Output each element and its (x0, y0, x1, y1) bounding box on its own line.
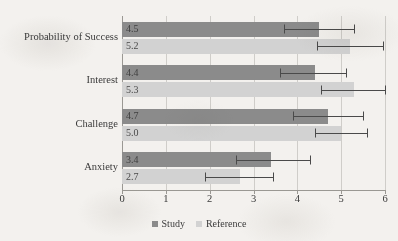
category-axis-labels: Probability of SuccessInterestChallengeA… (0, 0, 118, 241)
x-tick-label-6: 6 (382, 194, 387, 205)
category-label-interest: Interest (6, 75, 118, 86)
legend-swatch-icon (196, 221, 202, 227)
error-bar-cap-low (321, 85, 322, 94)
x-tick-label-4: 4 (295, 194, 300, 205)
legend-item-reference[interactable]: Reference (196, 219, 247, 229)
bar-group-row: 3.4 (122, 152, 385, 167)
bar-value-label: 5.2 (126, 41, 139, 51)
bar-group-row: 5.3 (122, 82, 385, 97)
bar-reference-interest: 5.3 (122, 82, 354, 97)
category-label-challenge: Challenge (6, 119, 118, 130)
error-bar-line (293, 116, 363, 117)
category-label-anxiety: Anxiety (6, 162, 118, 173)
error-bar-cap-high (383, 42, 384, 51)
error-bar-cap-low (205, 172, 206, 181)
error-bar-cap-high (367, 129, 368, 138)
bar-reference-probability-of-success: 5.2 (122, 39, 350, 54)
x-tick-label-0: 0 (119, 194, 124, 205)
chart-legend: StudyReference (0, 219, 398, 229)
error-bar-cap-low (236, 155, 237, 164)
legend-swatch-icon (152, 221, 158, 227)
x-tick-label-3: 3 (251, 194, 256, 205)
error-bar-line (284, 29, 354, 30)
plot-area: 4.55.24.45.34.75.03.42.7 (122, 16, 385, 190)
bar-value-label: 5.0 (126, 128, 139, 138)
bar-chart: Probability of SuccessInterestChallengeA… (0, 0, 398, 241)
bar-group-row: 5.0 (122, 126, 385, 141)
error-bar-cap-high (273, 172, 274, 181)
error-bar-cap-low (315, 129, 316, 138)
bar-group-row: 5.2 (122, 39, 385, 54)
error-bar-line (321, 90, 385, 91)
error-bar-cap-low (317, 42, 318, 51)
error-bar-cap-high (346, 68, 347, 77)
bar-value-label: 3.4 (126, 155, 139, 165)
bar-group-row: 4.4 (122, 65, 385, 80)
error-bar-line (317, 46, 383, 47)
error-bar-cap-high (310, 155, 311, 164)
bar-group-row: 2.7 (122, 169, 385, 184)
x-tick-label-2: 2 (207, 194, 212, 205)
error-bar-cap-high (354, 25, 355, 34)
error-bar-cap-low (280, 68, 281, 77)
legend-item-study[interactable]: Study (152, 219, 185, 229)
legend-label: Reference (206, 219, 247, 229)
error-bar-cap-high (385, 85, 386, 94)
bar-value-label: 5.3 (126, 85, 139, 95)
legend-label: Study (162, 219, 185, 229)
error-bar-cap-low (293, 112, 294, 121)
bar-value-label: 4.4 (126, 68, 139, 78)
error-bar-line (236, 160, 311, 161)
error-bar-cap-high (363, 112, 364, 121)
bar-value-label: 2.7 (126, 172, 139, 182)
bar-group-row: 4.5 (122, 22, 385, 37)
x-tick-label-1: 1 (163, 194, 168, 205)
x-tick-label-5: 5 (339, 194, 344, 205)
gridline-6 (385, 16, 386, 190)
error-bar-line (205, 177, 273, 178)
bar-group-row: 4.7 (122, 109, 385, 124)
category-label-probability-of-success: Probability of Success (6, 32, 118, 43)
error-bar-cap-low (284, 25, 285, 34)
bar-value-label: 4.7 (126, 111, 139, 121)
error-bar-line (280, 73, 346, 74)
error-bar-line (315, 133, 368, 134)
bar-reference-challenge: 5.0 (122, 126, 341, 141)
bar-value-label: 4.5 (126, 24, 139, 34)
